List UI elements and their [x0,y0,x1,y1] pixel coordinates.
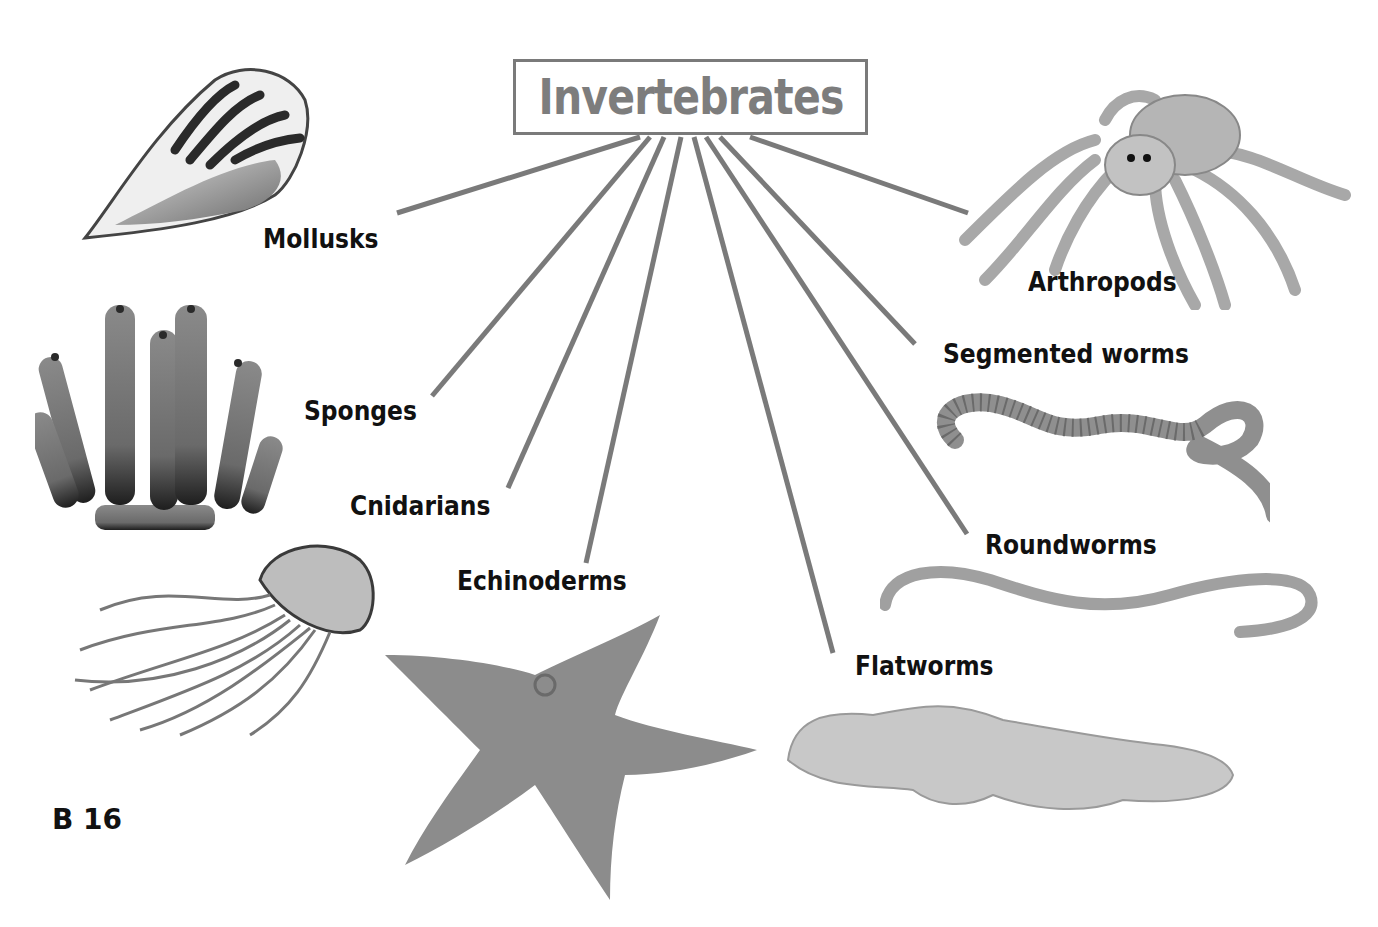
jellyfish-illustration [70,540,390,740]
flatworm-illustration [783,700,1238,820]
label-echinoderms: Echinoderms [457,566,627,596]
title-box: Invertebrates [513,59,868,135]
label-roundworms: Roundworms [985,530,1157,560]
label-mollusks: Mollusks [263,224,378,254]
diagram-title: Invertebrates [538,68,843,126]
page-number: B 16 [52,803,122,836]
line-segmented-worms [720,137,915,344]
earthworm-illustration [930,385,1270,525]
roundworm-illustration [880,560,1325,640]
conch-shell-illustration [75,60,315,250]
label-arthropods: Arthropods [1028,267,1177,297]
tube-sponge-illustration [35,295,285,535]
label-segmented-worms: Segmented worms [943,339,1189,369]
label-sponges: Sponges [304,396,417,426]
label-cnidarians: Cnidarians [350,491,490,521]
label-flatworms: Flatworms [855,651,994,681]
line-sponges [432,137,650,396]
line-flatworms [694,137,833,653]
line-mollusks [397,137,640,213]
sea-star-illustration [385,615,760,900]
